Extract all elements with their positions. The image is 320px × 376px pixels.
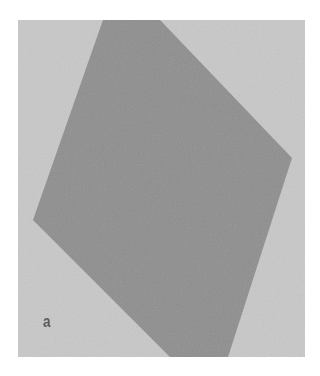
micrograph-frame	[18, 20, 305, 357]
specimen-shape	[18, 20, 305, 357]
panel-label: a	[43, 312, 51, 332]
